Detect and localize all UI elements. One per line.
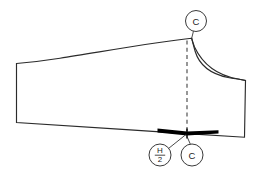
h-over-2-leader-line — [169, 135, 187, 149]
bottom-c-leader-line — [187, 137, 191, 145]
callout-h-over-2[interactable]: H 2 — [149, 144, 171, 166]
h-over-2-denominator: 2 — [158, 155, 163, 164]
callout-bottom-c[interactable]: C — [181, 144, 203, 166]
bottom-c-label: C — [189, 150, 196, 161]
top-c-leader-line — [192, 31, 194, 39]
pattern-diagram-root: C H 2 C — [0, 0, 261, 176]
h-over-2-numerator: H — [157, 146, 163, 155]
pattern-outline-shape — [17, 38, 246, 137]
pattern-diagram-svg: C H 2 C — [0, 0, 261, 176]
top-c-label: C — [193, 16, 200, 27]
callout-top-c[interactable]: C — [186, 11, 207, 32]
